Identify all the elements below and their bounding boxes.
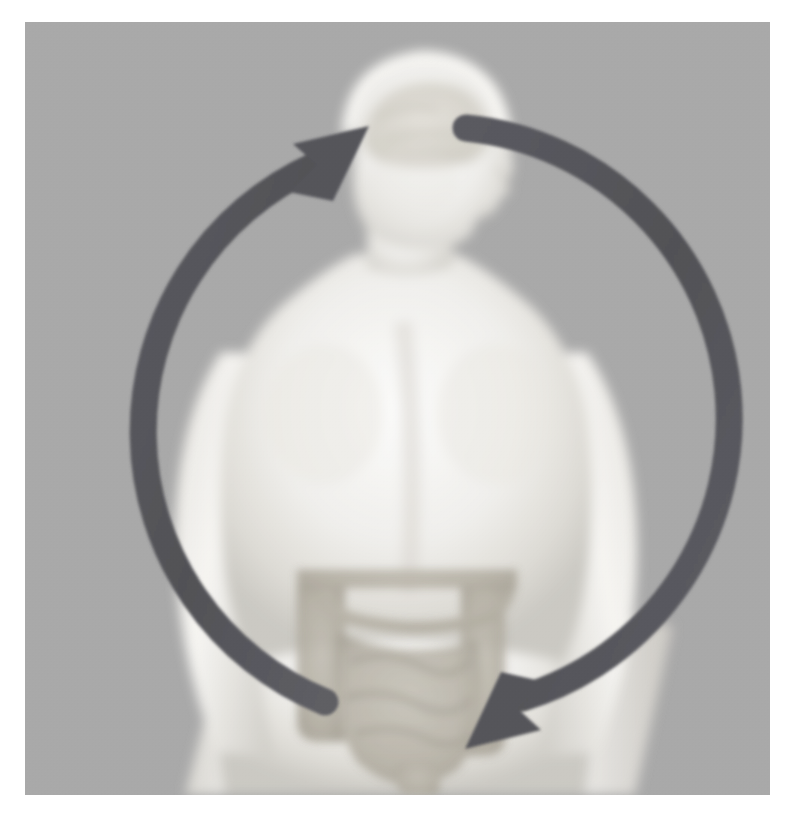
sigmoid-rectum bbox=[396, 764, 440, 795]
illustration-frame bbox=[25, 22, 770, 795]
shoulder-blade-left bbox=[267, 344, 383, 484]
gut-brain-axis-figure: Grayscale human body seen from behind wi… bbox=[0, 0, 790, 830]
colon-frame bbox=[297, 570, 517, 588]
spine-shading bbox=[403, 322, 412, 592]
shoulder-blade-right bbox=[437, 344, 553, 484]
illustration-canvas bbox=[25, 22, 770, 795]
